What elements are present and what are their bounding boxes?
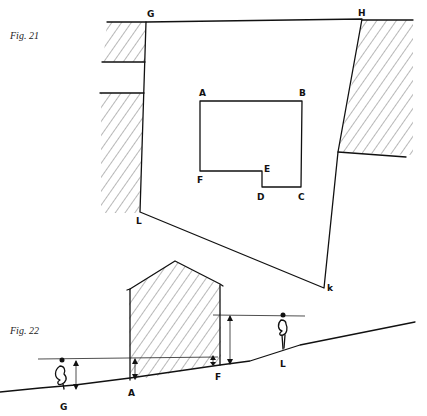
point-g-section: G [60, 402, 67, 412]
point-f-section: F [215, 372, 221, 382]
section-building [129, 261, 221, 380]
dimension-g [73, 360, 79, 390]
left-building-top [103, 22, 146, 62]
viewer-figure-l [278, 313, 287, 350]
fig-21-plan: G H A B C D E F k L [100, 8, 413, 293]
point-b-plan: B [299, 88, 306, 98]
point-k-plan: k [327, 283, 334, 293]
central-building [200, 101, 302, 187]
viewer-figure-g [56, 358, 67, 390]
left-building-bottom [101, 93, 144, 213]
point-a-section: A [128, 388, 135, 398]
point-c-plan: C [298, 192, 305, 202]
point-d-plan: D [257, 192, 264, 202]
point-a-plan: A [199, 88, 206, 98]
fig-22-section: G A F L [0, 261, 415, 412]
point-g-plan: G [147, 9, 154, 19]
point-l-plan: L [136, 216, 142, 226]
point-l-section: L [280, 359, 286, 369]
dimension-f-tall [227, 315, 233, 365]
point-e-plan: E [264, 164, 270, 174]
diagram-canvas: G H A B C D E F k L [0, 0, 427, 416]
point-f-plan: F [197, 175, 203, 185]
point-h-plan: H [358, 8, 366, 18]
eye-level-l [213, 315, 305, 316]
square-boundary [140, 19, 362, 288]
